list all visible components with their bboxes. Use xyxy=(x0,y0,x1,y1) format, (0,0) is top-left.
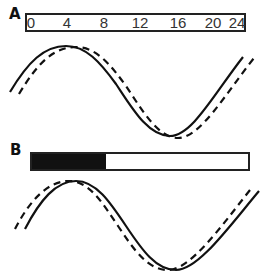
panel-a-solid-curve xyxy=(10,46,243,136)
rhythm-curves xyxy=(0,0,263,277)
panel-a-dashed-curve xyxy=(19,47,254,138)
panel-b-dashed-curve xyxy=(15,181,250,270)
